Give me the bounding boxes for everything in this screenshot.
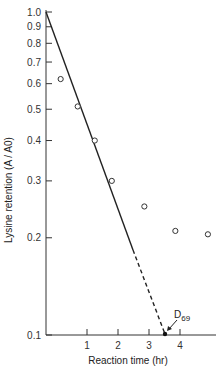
data-points xyxy=(58,76,210,236)
y-tick-label: 0.2 xyxy=(27,232,41,243)
data-point-open-circle xyxy=(205,232,210,237)
y-tick-label: 0.9 xyxy=(27,21,41,32)
y-tick-label: 0.6 xyxy=(27,78,41,89)
data-point-open-circle xyxy=(75,104,80,109)
data-point-open-circle xyxy=(142,204,147,209)
y-tick-label: 1.0 xyxy=(27,7,41,18)
x-tick-label: 1 xyxy=(84,340,90,351)
data-point-open-circle xyxy=(109,178,114,183)
x-tick-label: 4 xyxy=(177,340,183,351)
x-axis-title: Reaction time (hr) xyxy=(88,355,167,366)
x-tick-label: 3 xyxy=(146,340,152,351)
data-point-open-circle xyxy=(58,76,63,81)
y-tick-label: 0.8 xyxy=(27,38,41,49)
d69-marker xyxy=(163,332,167,336)
x-tick-label: 2 xyxy=(115,340,121,351)
y-tick-label: 0.5 xyxy=(27,104,41,115)
x-ticks: 1234 xyxy=(84,329,183,351)
data-point-open-circle xyxy=(92,138,97,143)
y-ticks: 1.00.90.80.70.60.50.40.30.20.1 xyxy=(27,7,52,341)
d69-arrow xyxy=(169,320,177,329)
y-tick-label: 0.7 xyxy=(27,57,41,68)
y-axis-title: Lysine retention (A / A0) xyxy=(3,137,14,243)
y-tick-label: 0.1 xyxy=(27,330,41,341)
chart: 1.00.90.80.70.60.50.40.30.20.1 1234 D69 … xyxy=(0,0,221,371)
y-tick-label: 0.4 xyxy=(27,135,41,146)
fit-line-solid xyxy=(46,12,133,250)
fit-line-dashed xyxy=(133,250,165,334)
data-point-open-circle xyxy=(173,228,178,233)
y-tick-label: 0.3 xyxy=(27,175,41,186)
